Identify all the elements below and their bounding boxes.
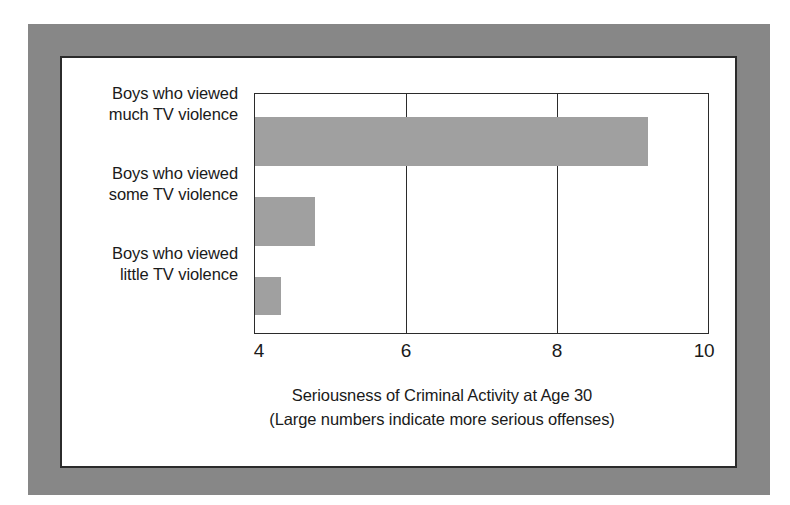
category-label-much-line2: much TV violence bbox=[8, 104, 238, 125]
bar-some-tv-violence bbox=[255, 197, 315, 246]
plot-area bbox=[254, 93, 709, 334]
xtick-label-10: 10 bbox=[694, 340, 715, 362]
category-label-little-line1: Boys who viewed bbox=[8, 243, 238, 264]
x-axis-subtitle: (Large numbers indicate more serious off… bbox=[182, 407, 702, 431]
xtick-label-8: 8 bbox=[552, 340, 562, 362]
category-label-some-line2: some TV violence bbox=[8, 184, 238, 205]
xtick-label-4: 4 bbox=[254, 340, 264, 362]
category-label-some-line1: Boys who viewed bbox=[8, 163, 238, 184]
category-label-much: Boys who viewed much TV violence bbox=[8, 83, 238, 125]
figure-inner-panel: Boys who viewed much TV violence Boys wh… bbox=[60, 56, 737, 468]
category-label-little: Boys who viewed little TV violence bbox=[8, 243, 238, 285]
figure-root: Boys who viewed much TV violence Boys wh… bbox=[0, 0, 790, 505]
category-label-much-line1: Boys who viewed bbox=[8, 83, 238, 104]
bar-little-tv-violence bbox=[255, 277, 281, 315]
category-label-little-line2: little TV violence bbox=[8, 264, 238, 285]
bar-much-tv-violence bbox=[255, 117, 648, 166]
x-axis-caption: Seriousness of Criminal Activity at Age … bbox=[182, 383, 702, 431]
category-label-some: Boys who viewed some TV violence bbox=[8, 163, 238, 205]
x-axis-title: Seriousness of Criminal Activity at Age … bbox=[182, 383, 702, 407]
xtick-label-6: 6 bbox=[401, 340, 411, 362]
figure-outer-frame: Boys who viewed much TV violence Boys wh… bbox=[28, 24, 770, 495]
